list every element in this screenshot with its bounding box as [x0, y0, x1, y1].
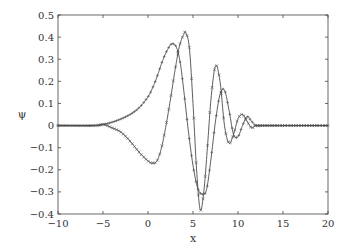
x-axis-label: x	[190, 232, 197, 245]
line-chart: −10−505101520 −0.4−0.3−0.2−0.100.10.20.3…	[0, 0, 351, 249]
y-tick-label: −0.3	[30, 186, 54, 197]
y-tick-label: −0.4	[30, 209, 54, 220]
y-tick-label: 0.4	[38, 32, 54, 43]
y-axis-label: ψ	[18, 108, 27, 121]
x-tick-label: 20	[322, 218, 335, 229]
x-tick-label: −10	[47, 218, 68, 229]
y-tick-label: −0.2	[30, 164, 54, 175]
y-tick-label: 0	[48, 120, 54, 131]
x-tick-label: 0	[145, 218, 151, 229]
x-tick-label: 5	[190, 218, 196, 229]
plot-frame	[58, 15, 328, 214]
y-tick-label: 0.1	[38, 98, 54, 109]
x-tick-label: 15	[277, 218, 290, 229]
x-tick-label: 10	[232, 218, 245, 229]
y-tick-label: −0.1	[30, 142, 54, 153]
y-tick-label: 0.3	[38, 54, 54, 65]
y-tick-label: 0.2	[38, 76, 54, 87]
x-tick-label: −5	[96, 218, 111, 229]
y-tick-label: 0.5	[38, 10, 54, 21]
